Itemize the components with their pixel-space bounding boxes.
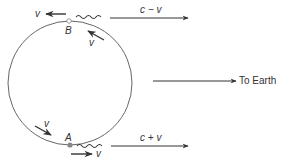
binary-star-orbit-diagram: B A v c − v v To Earth v c + v v: [0, 0, 293, 164]
light-wave-b: [76, 16, 101, 19]
velocity-label-b: v: [35, 8, 41, 19]
orbit-circle: [8, 21, 132, 145]
to-earth-label: To Earth: [239, 75, 276, 86]
point-a-marker: [67, 142, 72, 147]
point-a-label: A: [64, 132, 72, 143]
signal-label-top: c − v: [140, 4, 162, 15]
signal-label-bottom: c + v: [140, 132, 162, 143]
orbit-velocity-label-a: v: [44, 118, 50, 129]
velocity-label-a: v: [96, 148, 102, 159]
orbit-velocity-label-b: v: [89, 37, 95, 48]
point-b-marker: [67, 19, 71, 23]
point-b-label: B: [65, 25, 72, 36]
